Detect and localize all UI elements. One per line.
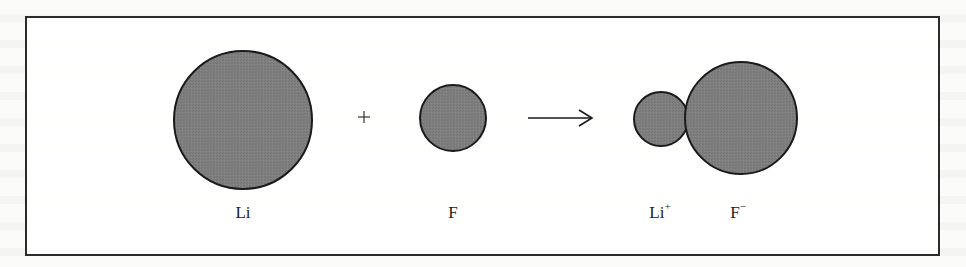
li-ion-symbol: Li [649,203,664,222]
f-atom-label: F [448,203,457,222]
li-ion-label: Li+ [649,200,670,222]
f-ion: F− [685,62,797,222]
li-ion: Li+ [634,92,688,222]
f-ion-symbol: F [730,203,739,222]
li-ion-circle [634,92,688,146]
reaction-arrow-icon [528,110,592,126]
li-ion-charge: + [664,200,670,212]
plus-operator [358,111,370,123]
f-ion-charge: − [740,200,746,212]
li-atom-label: Li [235,203,250,222]
li-atom: Li [174,51,312,222]
f-ion-circle [685,62,797,174]
f-atom-circle [420,85,486,151]
f-atom: F [420,85,486,222]
ionic-bond-diagram: Li F Li+ F− [0,0,966,267]
f-ion-label: F− [730,200,746,222]
li-atom-circle [174,51,312,189]
